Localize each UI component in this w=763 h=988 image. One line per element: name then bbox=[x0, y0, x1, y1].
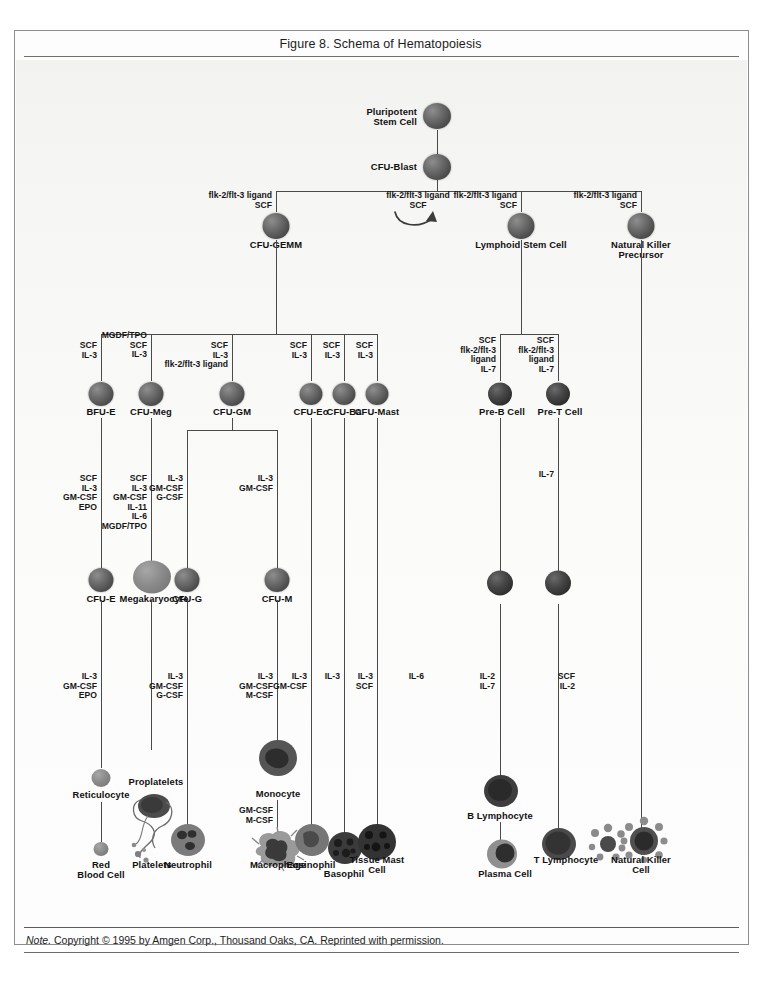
edge-bus-to-cfu-gemm bbox=[276, 191, 277, 212]
gf-to-cfu-ba: SCF IL-3 bbox=[323, 341, 340, 360]
cell-cfu-m bbox=[265, 568, 290, 592]
edge-to-cfu-gm bbox=[232, 334, 233, 381]
edge-cfu-gm-to-cfu-m bbox=[277, 430, 278, 568]
edge-to-cfu-ba bbox=[344, 334, 345, 381]
gf-to-t-lymphocyte: IL-2 IL-7 bbox=[480, 672, 495, 691]
edge-to-cfu-meg bbox=[151, 334, 152, 381]
edge-t-intermediate-to-t-lymphocyte bbox=[558, 604, 559, 832]
cell-cfu-meg bbox=[139, 382, 164, 406]
cell-cfu-gemm bbox=[263, 213, 290, 239]
label-cfu-meg: CFU-Meg bbox=[130, 407, 172, 417]
cell-cfu-blast bbox=[423, 154, 451, 180]
gf-to-lymphoid-stem-cell: flk-2/flt-3 ligand SCF bbox=[453, 191, 517, 210]
cell-neutrophil bbox=[169, 822, 207, 858]
edge-cfu-gemm-down bbox=[276, 240, 277, 335]
label-b-lymphocyte: B Lymphocyte bbox=[467, 811, 532, 821]
gf-to-cfu-gemm: flk-2/flt-3 ligand SCF bbox=[208, 191, 272, 210]
label-natural-killer-cell: Natural Killer Cell bbox=[611, 855, 671, 876]
edge-cfu-eo-to-eosinophil bbox=[311, 418, 312, 830]
label-plasma-cell: Plasma Cell bbox=[478, 869, 532, 879]
edge-pre-b-down bbox=[500, 418, 501, 571]
cell-megakaryocyte bbox=[133, 561, 171, 594]
edge-bus-to-lymphoid bbox=[521, 191, 522, 212]
cell-pre-b-cell bbox=[488, 383, 512, 406]
label-reticulocyte: Reticulocyte bbox=[73, 790, 130, 800]
gf-to-megakaryocyte: SCF IL-3 GM-CSF IL-11 IL-6 MGDF/TPO bbox=[102, 474, 147, 532]
edge-b-intermediate-to-b-lymphocyte bbox=[500, 604, 501, 784]
gf-to-nk-precursor: flk-2/flt-3 ligand SCF bbox=[573, 191, 637, 210]
cell-monocyte bbox=[257, 738, 299, 778]
edge-to-cfu-eo bbox=[311, 334, 312, 381]
gf-to-cfu-meg: MGDF/TPO SCF IL-3 bbox=[102, 331, 147, 360]
gf-to-pre-b-cell: SCF flk-2/flt-3 ligand IL-7 bbox=[460, 336, 496, 374]
gf-to-reticulocyte: IL-3 GM-CSF EPO bbox=[63, 672, 97, 701]
gf-to-neutrophil: IL-3 GM-CSF G-CSF bbox=[149, 672, 183, 701]
label-monocyte: Monocyte bbox=[256, 789, 301, 799]
cell-plasma-cell bbox=[485, 838, 519, 870]
gf-to-pre-t-cell: SCF flk-2/flt-3 ligand IL-7 bbox=[518, 336, 554, 374]
cell-cfu-ba bbox=[333, 383, 356, 405]
note-top-divider bbox=[24, 927, 739, 928]
figure-page: Figure 8. Schema of Hematopoiesis Plurip… bbox=[0, 0, 763, 988]
edge-nk-precursor-down bbox=[641, 240, 642, 855]
gf-to-b-intermediate: IL-7 bbox=[539, 470, 554, 480]
edge-cfu-e-to-reticulocyte bbox=[101, 600, 102, 768]
cell-nk-precursor bbox=[628, 213, 655, 239]
edge-bus-to-nk-precursor bbox=[641, 191, 642, 212]
label-pre-t-cell: Pre-T Cell bbox=[538, 407, 583, 417]
cell-pluripotent-stem-cell bbox=[423, 103, 451, 129]
edge-cfu-ba-to-basophil bbox=[344, 418, 345, 836]
note-text: Copyright © 1995 by Amgen Corp., Thousan… bbox=[51, 934, 444, 946]
gf-to-monocyte: IL-3 GM-CSF M-CSF bbox=[239, 672, 273, 701]
gf-to-tissue-mast-cell: IL-3 SCF bbox=[356, 672, 373, 691]
cell-lymphoid-stem-cell bbox=[508, 213, 535, 239]
figure-note: Note. Copyright © 1995 by Amgen Corp., T… bbox=[26, 934, 726, 946]
cell-cfu-mast bbox=[366, 383, 389, 405]
cell-t-intermediate bbox=[545, 571, 571, 596]
edge-to-pre-t-cell bbox=[558, 334, 559, 381]
cell-cfu-gm bbox=[220, 382, 245, 406]
edge-to-cfu-mast bbox=[377, 334, 378, 381]
note-bottom-divider bbox=[24, 952, 739, 953]
gf-to-cfu-mast: SCF IL-3 bbox=[356, 341, 373, 360]
figure-title: Figure 8. Schema of Hematopoiesis bbox=[14, 33, 747, 55]
label-pluripotent-stem-cell: Pluripotent Stem Cell bbox=[366, 107, 417, 128]
gf-to-macrophage: GM-CSF M-CSF bbox=[239, 806, 273, 825]
cell-red-blood-cell bbox=[94, 842, 109, 856]
gf-to-b-lymphocyte: IL-6 bbox=[409, 672, 424, 682]
note-prefix: Note. bbox=[26, 934, 51, 946]
label-tissue-mast-cell: Tissue Mast Cell bbox=[350, 855, 405, 876]
edge-cfu-gm-to-cfu-g bbox=[187, 430, 188, 568]
cell-cfu-eo bbox=[300, 383, 323, 405]
edge-cfu-g-to-neutrophil bbox=[187, 600, 188, 832]
gf-to-cfu-m: IL-3 GM-CSF bbox=[239, 474, 273, 493]
label-pre-b-cell: Pre-B Cell bbox=[479, 407, 525, 417]
label-cfu-blast: CFU-Blast bbox=[371, 162, 417, 172]
self-renewal-arrow-icon bbox=[392, 205, 444, 231]
gf-to-bfu-e: SCF IL-3 bbox=[80, 341, 97, 360]
cell-pre-t-cell bbox=[546, 383, 570, 406]
edge-lymphoid-down bbox=[521, 240, 522, 335]
edge-cfu-mast-to-tissue-mast bbox=[377, 418, 378, 830]
cell-b-intermediate bbox=[487, 571, 513, 596]
cell-reticulocyte bbox=[92, 769, 111, 787]
gf-to-eosinophil: IL-3 GM-CSF bbox=[273, 672, 307, 691]
edge-reticulocyte-to-rbc bbox=[101, 802, 102, 842]
label-bfu-e: BFU-E bbox=[86, 407, 115, 417]
gf-to-cfu-eo: SCF IL-3 bbox=[290, 341, 307, 360]
gf-to-cfu-gm: SCF IL-3 flk-2/flt-3 ligand bbox=[164, 341, 228, 370]
cell-b-lymphocyte bbox=[482, 773, 520, 809]
cell-bfu-e bbox=[89, 382, 114, 406]
label-neutrophil: Neutrophil bbox=[164, 860, 212, 870]
label-cfu-eo: CFU-Eo bbox=[294, 407, 329, 417]
gf-to-basophil: IL-3 bbox=[325, 672, 340, 682]
cell-cfu-g bbox=[175, 568, 200, 592]
cell-cfu-e bbox=[89, 568, 114, 592]
label-cfu-mast: CFU-Mast bbox=[355, 407, 400, 417]
gf-to-cfu-g: IL-3 GM-CSF G-CSF bbox=[149, 474, 183, 503]
edge-pre-t-down bbox=[558, 418, 559, 571]
title-divider bbox=[24, 56, 739, 57]
gf-to-cfu-e: SCF IL-3 GM-CSF EPO bbox=[63, 474, 97, 512]
label-cfu-gm: CFU-GM bbox=[213, 407, 251, 417]
label-red-blood-cell: Red Blood Cell bbox=[77, 860, 124, 881]
